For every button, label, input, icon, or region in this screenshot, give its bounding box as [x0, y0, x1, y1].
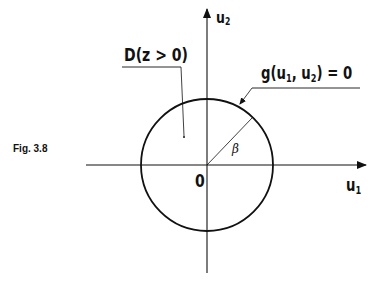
diagram-canvas	[0, 0, 382, 283]
u2-axis-label: u2	[216, 10, 230, 27]
radius-line	[207, 118, 252, 165]
u1-axis-label: u1	[346, 177, 361, 195]
boundary-leader	[240, 88, 252, 104]
region-leader	[181, 67, 184, 136]
figure-caption: Fig. 3.8	[13, 144, 47, 154]
region-point	[183, 136, 185, 138]
boundary-label: g(u1, u2) = 0	[261, 65, 352, 83]
region-label: D(z > 0)	[124, 46, 188, 64]
radius-label: β	[232, 143, 239, 155]
origin-label: 0	[195, 172, 205, 190]
